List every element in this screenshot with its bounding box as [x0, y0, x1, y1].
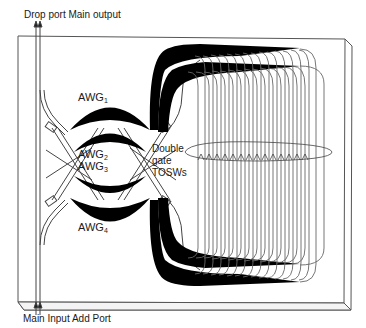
tosw-label-line1: Double	[152, 143, 184, 154]
awg-4-sub: 4	[104, 227, 108, 234]
awg-3-base: AWG	[78, 160, 104, 172]
awg-4-label: AWG4	[78, 222, 108, 236]
tosw-label-line3: TOSWs	[152, 167, 187, 178]
awg-2-sub: 2	[104, 154, 108, 161]
awg-1-base: AWG	[78, 91, 104, 103]
diagram-canvas	[0, 0, 366, 328]
awg-2-base: AWG	[78, 148, 104, 160]
tosw-label-line2: gate	[152, 155, 171, 166]
drop-port-main-output-label: Drop port Main output	[24, 9, 121, 20]
plc-diagram: Drop port Main output Main Input Add Por…	[0, 0, 366, 328]
awg-1-label: AWG1	[78, 92, 108, 106]
awg-3-sub: 3	[104, 166, 108, 173]
awg-4-base: AWG	[78, 221, 104, 233]
awg-3-label: AWG3	[78, 161, 108, 175]
main-input-add-port-label: Main Input Add Port	[23, 313, 111, 324]
awg-1-sub: 1	[104, 97, 108, 104]
